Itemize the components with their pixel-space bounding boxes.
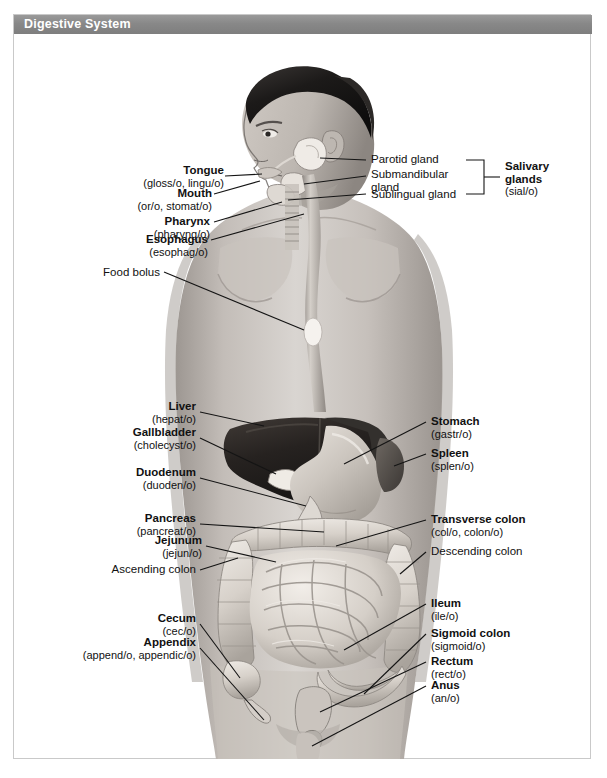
- label-esophagus: Esophagus (esophag/o): [62, 233, 208, 258]
- label-anus-term: Anus: [431, 679, 460, 692]
- label-cecum: Cecum (cec/o): [90, 612, 196, 637]
- label-gallbladder: Gallbladder (cholecyst/o): [64, 426, 196, 451]
- label-submandibular-gland-term: Submandibular: [371, 168, 448, 181]
- label-esophagus-root: (esophag/o): [62, 246, 208, 259]
- label-sigmoid-colon: Sigmoid colon (sigmoid/o): [431, 627, 510, 652]
- label-duodenum-term: Duodenum: [74, 466, 196, 479]
- label-spleen: Spleen (splen/o): [431, 447, 474, 472]
- page-title: Digestive System: [24, 17, 131, 31]
- label-appendix-root: (append/o, appendic/o): [28, 649, 196, 662]
- label-ileum-term: Ileum: [431, 597, 461, 610]
- anatomy-illustration-area: Tongue (gloss/o, lingu/o) Mouth (or/o, s…: [14, 34, 592, 759]
- label-mouth-term: Mouth: [54, 187, 212, 200]
- label-sigmoid-colon-root: (sigmoid/o): [431, 640, 510, 653]
- label-transverse-colon-root: (col/o, colon/o): [431, 526, 526, 539]
- label-liver-term: Liver: [104, 400, 196, 413]
- label-anus: Anus (an/o): [431, 679, 460, 704]
- label-rectum-term: Rectum: [431, 655, 473, 668]
- label-anus-root: (an/o): [431, 692, 460, 705]
- label-ascending-colon: Ascending colon: [62, 563, 196, 576]
- page-root: Digestive System: [0, 0, 607, 778]
- label-rectum: Rectum (rect/o): [431, 655, 473, 680]
- label-parotid-gland-term: Parotid gland: [371, 153, 439, 166]
- label-spleen-root: (splen/o): [431, 460, 474, 473]
- label-jejunum: Jejunum (jejun/o): [88, 534, 202, 559]
- label-cecum-term: Cecum: [90, 612, 196, 625]
- label-duodenum: Duodenum (duoden/o): [74, 466, 196, 491]
- label-food-bolus-term: Food bolus: [44, 266, 160, 279]
- label-jejunum-root: (jejun/o): [88, 547, 202, 560]
- label-ascending-colon-term: Ascending colon: [62, 563, 196, 576]
- label-esophagus-term: Esophagus: [62, 233, 208, 246]
- label-duodenum-root: (duoden/o): [74, 479, 196, 492]
- label-tongue-term: Tongue: [74, 164, 224, 177]
- label-pancreas-term: Pancreas: [74, 512, 196, 525]
- label-ileum-root: (ile/o): [431, 610, 461, 623]
- label-mouth: Mouth (or/o, stomat/o): [54, 187, 212, 212]
- label-liver: Liver (hepat/o): [104, 400, 196, 425]
- figure-title-bar: Digestive System: [14, 15, 592, 34]
- label-sublingual-gland: Sublingual gland: [371, 188, 456, 201]
- figure-card: Digestive System: [13, 14, 591, 759]
- label-liver-root: (hepat/o): [104, 413, 196, 426]
- label-transverse-colon-term: Transverse colon: [431, 513, 526, 526]
- label-ileum: Ileum (ile/o): [431, 597, 461, 622]
- label-tongue: Tongue (gloss/o, lingu/o): [74, 164, 224, 189]
- label-gallbladder-root: (cholecyst/o): [64, 439, 196, 452]
- label-food-bolus: Food bolus: [44, 266, 160, 279]
- label-jejunum-term: Jejunum: [88, 534, 202, 547]
- label-parotid-gland: Parotid gland: [371, 153, 439, 166]
- label-mouth-root: (or/o, stomat/o): [54, 200, 212, 213]
- label-salivary-glands-term: Salivary: [505, 160, 549, 173]
- label-stomach-term: Stomach: [431, 415, 480, 428]
- label-spleen-term: Spleen: [431, 447, 474, 460]
- label-stomach-root: (gastr/o): [431, 428, 480, 441]
- label-descending-colon: Descending colon: [431, 545, 522, 558]
- label-sublingual-gland-term: Sublingual gland: [371, 188, 456, 201]
- label-appendix-term: Appendix: [28, 636, 196, 649]
- label-descending-colon-term: Descending colon: [431, 545, 522, 558]
- label-salivary-glands-root: (sial/o): [505, 185, 549, 198]
- label-transverse-colon: Transverse colon (col/o, colon/o): [431, 513, 526, 538]
- label-salivary-glands: Salivary glands (sial/o): [505, 160, 549, 198]
- label-gallbladder-term: Gallbladder: [64, 426, 196, 439]
- label-sigmoid-colon-term: Sigmoid colon: [431, 627, 510, 640]
- label-appendix: Appendix (append/o, appendic/o): [28, 636, 196, 661]
- label-salivary-glands-term2: glands: [505, 173, 549, 186]
- label-pharynx-term: Pharynx: [74, 215, 210, 228]
- label-stomach: Stomach (gastr/o): [431, 415, 480, 440]
